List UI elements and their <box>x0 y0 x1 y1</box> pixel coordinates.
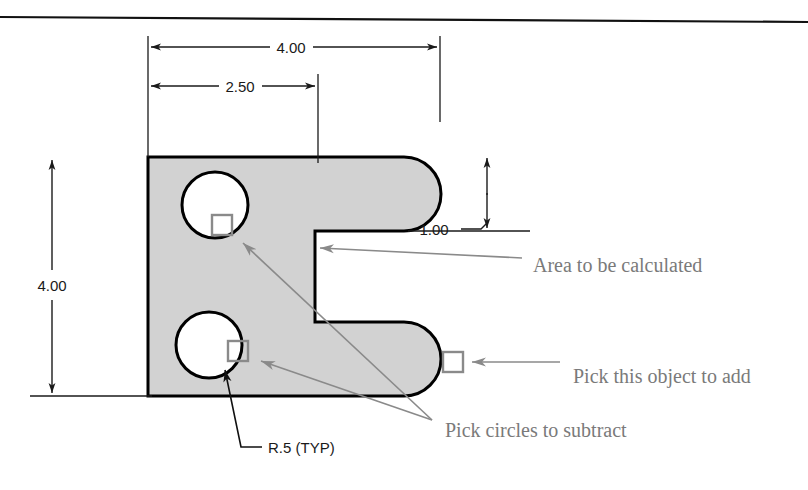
leader-area-note <box>320 248 522 258</box>
callout-radius-typ: R.5 (TYP) <box>268 439 335 456</box>
dim-label-arm-height: 1.00 <box>419 221 448 238</box>
callout-pick-circles-to-subtract: Pick circles to subtract <box>445 419 627 441</box>
drawing-page: 4.00 2.50 4.00 1.00 Area to be calculate… <box>0 0 808 490</box>
dim-label-overall-height: 4.00 <box>37 277 66 294</box>
callout-area-to-be-calculated: Area to be calculated <box>533 254 702 276</box>
dim-label-notch-offset: 2.50 <box>225 78 254 95</box>
page-top-rule <box>0 17 808 22</box>
callout-pick-object-to-add: Pick this object to add <box>573 365 751 388</box>
pick-box-arm-object[interactable] <box>443 352 463 372</box>
upper-hole <box>182 172 248 238</box>
technical-drawing-canvas: 4.00 2.50 4.00 1.00 Area to be calculate… <box>0 0 808 490</box>
dim-leader-arm-height <box>461 223 487 229</box>
dim-label-overall-width: 4.00 <box>276 39 305 56</box>
lower-hole <box>176 312 242 378</box>
